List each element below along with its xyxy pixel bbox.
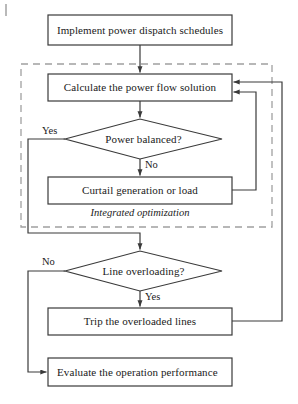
- edge-trip-feedback-to-calculate: [232, 82, 282, 321]
- scan-artifact-mark: [5, 4, 7, 16]
- node-trip-box: [48, 308, 232, 335]
- flowchart-svg: [0, 0, 298, 404]
- node-curtail-box: [48, 177, 232, 204]
- node-evaluate-box: [48, 358, 232, 386]
- node-line-overloading-diamond: [65, 251, 222, 291]
- node-power-balanced-diamond: [65, 119, 222, 159]
- node-implement-box: [48, 15, 232, 45]
- flowchart-canvas: Implement power dispatch schedules Calcu…: [0, 0, 298, 404]
- node-calculate-box: [48, 74, 232, 101]
- edge-curtail-feedback-to-calculate: [232, 92, 256, 190]
